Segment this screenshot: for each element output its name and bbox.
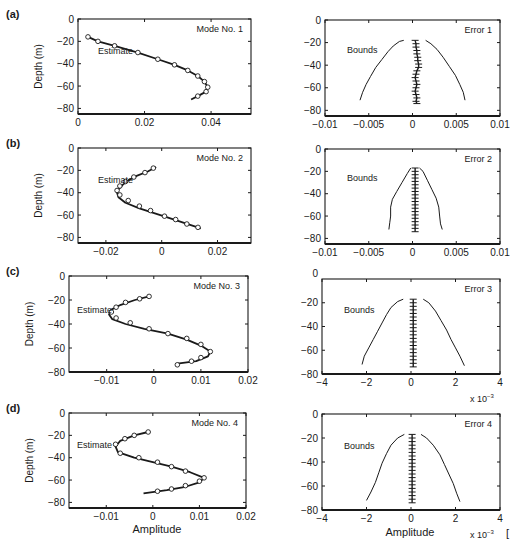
x-tick-label: −0.02 (93, 246, 119, 257)
data-point-marker (136, 50, 141, 55)
x-tick-label: 0.005 (444, 119, 469, 130)
x-tick-label: −0.01 (94, 511, 120, 522)
data-point-marker (126, 198, 131, 203)
series-annotation: Estimate (98, 46, 133, 56)
y-tick-label: −40 (301, 321, 318, 332)
y-tick-label: −80 (57, 232, 74, 243)
panel-label: (b) (6, 137, 20, 149)
data-point-marker (183, 469, 188, 474)
chart-panel-b-error: −0.01−0.00500.0050.010−20−40−60−80Error … (304, 144, 510, 259)
data-point-marker (199, 342, 204, 347)
y-tick-label: −60 (301, 345, 318, 356)
series-annotation: Bounds (347, 45, 378, 55)
chart-panel-a-mode: 00.020.040−20−40−60−80Mode No. 1Estimate… (6, 8, 251, 128)
x-tick-label: 0.04 (201, 117, 221, 128)
y-tick-label: 0 (59, 271, 65, 282)
x-axis-multiplier: x 10−3 (470, 529, 495, 540)
data-point-marker (146, 430, 151, 435)
y-tick-label: 0 (315, 15, 321, 26)
data-point-marker (185, 68, 190, 73)
x-tick-label: 0.01 (490, 247, 510, 258)
series-annotation: Bounds (344, 441, 375, 451)
y-tick-label: −60 (301, 481, 318, 492)
y-tick-label: −80 (57, 103, 74, 114)
trailing-bracket-mark: [ (506, 527, 509, 539)
data-point-marker (114, 316, 119, 321)
y-tick-label: −40 (57, 58, 74, 69)
chart-panel-a-error: −0.01−0.00500.0050.010−20−40−60−80Error … (304, 15, 510, 131)
data-point-marker (113, 442, 118, 447)
x-tick-label: 2 (453, 377, 459, 388)
y-axis-label: Depth (m) (33, 44, 44, 88)
chart-panel-c-error: −4−2024−20−40−60−800Error 3Boundsx 10−3 (301, 268, 503, 404)
x-tick-label: 0.02 (135, 117, 155, 128)
y-tick-label: −40 (48, 319, 65, 330)
x-tick-label: 4 (497, 513, 503, 524)
x-tick-label: 0 (75, 117, 81, 128)
chart-title: Mode No. 3 (193, 281, 240, 291)
y-tick-label: −80 (304, 105, 321, 116)
y-tick-label: −60 (48, 475, 65, 486)
x-tick-label: 0 (410, 119, 416, 130)
data-point-marker (151, 166, 156, 171)
chart-panel-d-error: −4−20240−20−40−60−80Error 4Boundsx 10−3 (301, 409, 503, 541)
data-point-marker (183, 483, 188, 488)
data-point-marker (123, 300, 128, 305)
chart-title: Mode No. 1 (196, 24, 243, 34)
y-tick-label: −60 (48, 343, 65, 354)
panel-label: (d) (6, 402, 20, 414)
data-point-marker (137, 455, 142, 460)
y-tick-label: −20 (57, 165, 74, 176)
data-point-marker (156, 57, 161, 62)
series-line (421, 434, 460, 501)
data-point-marker (128, 321, 133, 326)
data-point-marker (137, 204, 142, 209)
chart-title: Error 1 (464, 25, 492, 35)
x-tick-label: 0.01 (190, 511, 210, 522)
series-line (426, 40, 465, 100)
y-tick-label: −20 (301, 433, 318, 444)
series-line (389, 168, 411, 229)
x-tick-label: 0.005 (444, 247, 469, 258)
data-point-marker (169, 487, 174, 492)
data-point-marker (118, 451, 123, 456)
y-tick-label: −20 (304, 166, 321, 177)
x-tick-label: −0.01 (94, 375, 120, 386)
data-point-marker (199, 355, 204, 360)
x-tick-label: −0.005 (353, 247, 384, 258)
data-point-marker (185, 222, 190, 227)
data-point-marker (204, 89, 209, 94)
data-point-marker (202, 79, 207, 84)
y-axis-label: Depth (m) (24, 302, 35, 346)
data-point-marker (166, 331, 171, 336)
y-tick-label: 0 (315, 144, 321, 155)
y-tick-label: −60 (304, 82, 321, 93)
figure-canvas: 00.020.040−20−40−60−80Mode No. 1Estimate… (0, 0, 518, 550)
data-point-marker (147, 294, 152, 299)
data-point-marker (172, 63, 177, 68)
y-tick-label: −60 (57, 210, 74, 221)
data-point-marker (96, 39, 101, 44)
x-tick-label: −2 (361, 513, 373, 524)
y-tick-label: 0 (312, 409, 318, 420)
data-point-marker (143, 170, 148, 175)
y-tick-label: −40 (304, 188, 321, 199)
data-point-marker (195, 94, 200, 99)
y-tick-label: −80 (301, 505, 318, 516)
x-axis-label-left: Amplitude (133, 523, 182, 535)
data-point-marker (137, 297, 142, 302)
chart-title: Error 4 (464, 419, 492, 429)
y-tick-label: 0 (312, 268, 318, 279)
data-point-marker (208, 349, 213, 354)
y-tick-label: −80 (301, 369, 318, 380)
x-axis-label-right: Amplitude (386, 526, 435, 538)
chart-title: Error 2 (464, 154, 492, 164)
panel-label: (a) (6, 8, 20, 20)
data-point-marker (155, 460, 160, 465)
figure: 00.020.040−20−40−60−80Mode No. 1Estimate… (0, 0, 518, 550)
y-tick-label: −20 (48, 430, 65, 441)
x-tick-label: 0.01 (191, 375, 211, 386)
series-line (109, 296, 210, 363)
x-tick-label: −0.005 (353, 119, 384, 130)
series-annotation: Estimate (77, 305, 112, 315)
